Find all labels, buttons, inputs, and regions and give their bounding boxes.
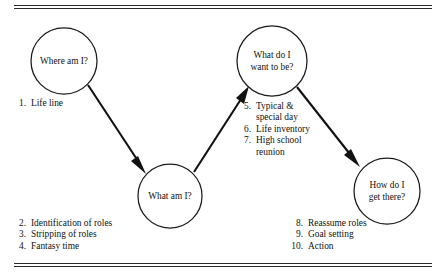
list-item-text: Action (308, 241, 334, 252)
node-where-am-i[interactable]: Where am I? (31, 28, 97, 94)
node-how-do-i-get-there[interactable]: How do I get there? (354, 158, 420, 224)
list-item-number: 5. (241, 101, 251, 112)
node-label-get-there-line1: How do I (369, 180, 404, 190)
list-item-text: Goal setting (308, 229, 354, 240)
what-am-i-list: 2. Identification of roles 3. Stripping … (16, 218, 112, 252)
list-item-text: Reassume roles (308, 218, 367, 229)
figure-page: Where am I? What am I? What do I want to… (0, 0, 445, 274)
node-circle (354, 158, 420, 224)
bottom-double-rule (14, 263, 432, 267)
life-line-list: 1. Life line (16, 98, 63, 109)
list-item-text: Life line (31, 98, 63, 109)
list-item-text: Fantasy time (31, 241, 79, 252)
list-item-number: 1. (16, 98, 26, 109)
arrowhead-icon (344, 149, 360, 167)
list-item-text: Life inventory (256, 124, 310, 135)
list-item: 4. Fantasy time (16, 241, 112, 252)
list-item-number: 8. (289, 218, 303, 229)
list-item: 6. Life inventory (241, 124, 310, 135)
list-item: 7. High school (241, 135, 310, 146)
node-circle (237, 26, 307, 96)
want-to-be-list: 5. Typical & special day 6. Life invento… (241, 101, 310, 158)
arrowhead-icon (131, 156, 146, 174)
get-there-list: 8. Reassume roles 9. Goal setting 10. Ac… (289, 218, 367, 252)
list-item-text: High school (256, 135, 302, 146)
list-item-number: 10. (289, 241, 303, 252)
list-item-number: 9. (289, 229, 303, 240)
list-item-continuation: reunion (241, 147, 310, 158)
node-label-where-am-i: Where am I? (40, 56, 88, 66)
list-item-text: Stripping of roles (31, 229, 97, 240)
list-item: 9. Goal setting (289, 229, 367, 240)
list-item-number: 2. (16, 218, 26, 229)
node-what-do-i-want-to-be[interactable]: What do I want to be? (237, 26, 307, 96)
edge-where-am-i-to-what-am-i (88, 85, 146, 174)
list-item: 3. Stripping of roles (16, 229, 112, 240)
list-item-number: 7. (241, 135, 251, 146)
list-item-continuation: special day (241, 112, 310, 123)
node-label-want-to-be-line2: want to be? (251, 62, 294, 72)
list-item-number: 6. (241, 124, 251, 135)
node-label-get-there-line2: get there? (369, 192, 405, 202)
list-item-number: 3. (16, 229, 26, 240)
list-item: 2. Identification of roles (16, 218, 112, 229)
node-label-what-am-i: What am I? (148, 191, 191, 201)
list-item: 1. Life line (16, 98, 63, 109)
list-item-text: Identification of roles (31, 218, 112, 229)
list-item: 5. Typical & (241, 101, 310, 112)
list-item-text: Typical & (256, 101, 294, 112)
list-item-number: 4. (16, 241, 26, 252)
list-item: 10. Action (289, 241, 367, 252)
node-what-am-i[interactable]: What am I? (138, 164, 202, 228)
node-label-want-to-be-line1: What do I (253, 50, 290, 60)
list-item: 8. Reassume roles (289, 218, 367, 229)
